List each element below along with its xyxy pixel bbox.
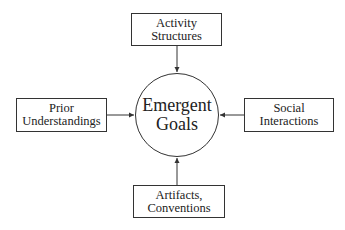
prior-understandings-box: Prior Understandings (16, 98, 107, 132)
emergent-goals-line1: Emergent (142, 96, 212, 115)
emergent-goals-line2: Goals (156, 115, 198, 134)
artifacts-conventions-box: Artifacts, Conventions (133, 185, 225, 218)
activity-structures-box: Activity Structures (131, 13, 222, 46)
activity-structures-line1: Activity (156, 17, 197, 30)
artifacts-conventions-line1: Artifacts, (156, 189, 203, 202)
emergent-goals-label: Emergent Goals (136, 73, 218, 157)
social-interactions-box: Social Interactions (244, 98, 334, 132)
artifacts-conventions-line2: Conventions (147, 202, 210, 215)
social-interactions-line2: Interactions (259, 115, 318, 128)
activity-structures-line2: Structures (151, 30, 202, 43)
prior-understandings-line2: Understandings (22, 115, 100, 128)
